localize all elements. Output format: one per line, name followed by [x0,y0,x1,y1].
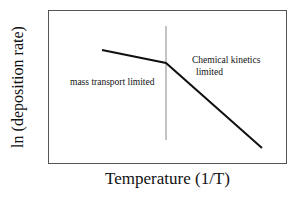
x-axis-label: Temperature (1/T) [48,169,287,189]
chemical-kinetics-label-line1: Chemical kinetics [192,54,260,66]
mass-transport-label: mass transport limited [70,76,154,88]
y-axis-label: ln (deposition rate) [9,17,27,157]
chemical-kinetics-label-line2: limited [196,66,223,78]
